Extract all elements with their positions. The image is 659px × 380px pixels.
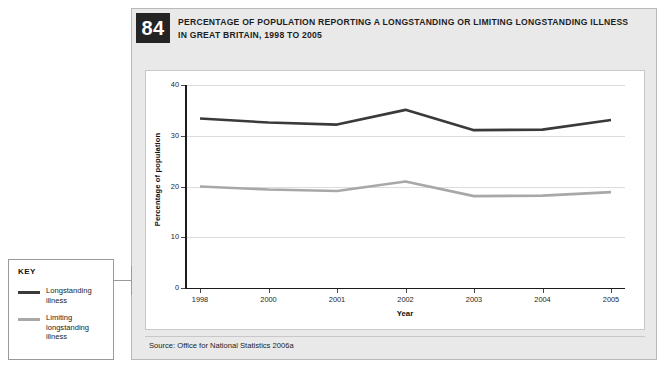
figure-title-line-1: PERCENTAGE OF POPULATION REPORTING A LON…: [178, 16, 646, 29]
x-tick-label: 2001: [314, 295, 360, 304]
figure-source-note: Source: Office for National Statistics 2…: [145, 336, 645, 354]
legend-line-swatch-icon: [18, 291, 40, 294]
x-tick-mark: [611, 289, 612, 293]
legend-item-label: Longstanding illness: [46, 286, 112, 305]
chart-plot-panel: Percentage of population 010203040 19982…: [145, 70, 645, 330]
x-tick-mark: [337, 289, 338, 293]
x-tick-mark: [543, 289, 544, 293]
figure-card: 84 PERCENTAGE OF POPULATION REPORTING A …: [131, 8, 657, 360]
figure-title-line-2: IN GREAT BRITAIN, 1998 TO 2005: [178, 29, 646, 42]
x-tick-mark: [474, 289, 475, 293]
figure-number-badge: 84: [136, 13, 170, 43]
legend-connector-bracket: [131, 266, 132, 295]
x-tick-label: 2005: [588, 295, 634, 304]
x-tick-mark: [269, 289, 270, 293]
legend-item-label: Limiting longstanding illness: [46, 313, 112, 342]
legend-heading: KEY: [18, 267, 36, 276]
chart-legend-key-box: KEY Longstanding illness Limiting longst…: [8, 259, 114, 360]
legend-connector-line: [113, 280, 132, 281]
x-tick-label: 2000: [246, 295, 292, 304]
figure-title: PERCENTAGE OF POPULATION REPORTING A LON…: [178, 16, 646, 41]
x-tick-label: 1998: [177, 295, 223, 304]
legend-line-swatch-icon: [18, 318, 40, 321]
x-tick-label: 2003: [451, 295, 497, 304]
series-line-limiting-longstanding-illness: [200, 181, 611, 196]
x-tick-mark: [406, 289, 407, 293]
x-tick-label: 2002: [383, 295, 429, 304]
series-line-longstanding-illness: [200, 110, 611, 130]
x-axis-title: Year: [185, 309, 625, 318]
chart-series-layer: [146, 71, 646, 331]
x-tick-mark: [200, 289, 201, 293]
figure-header: 84 PERCENTAGE OF POPULATION REPORTING A …: [132, 9, 656, 61]
x-tick-label: 2004: [520, 295, 566, 304]
